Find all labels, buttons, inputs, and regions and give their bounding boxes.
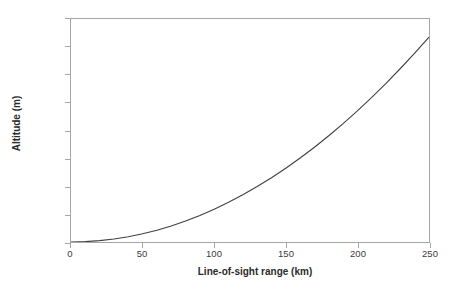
x-axis-title: Line-of-sight range (km) <box>0 266 452 277</box>
x-tick-mark <box>430 243 431 248</box>
series-line-altitude <box>71 37 429 242</box>
x-tick-mark <box>70 243 71 248</box>
x-tick-mark <box>214 243 215 248</box>
x-tick-label: 200 <box>350 248 366 259</box>
chart-container: 05001,0001,5002,0002,5003,0003,5004,000 … <box>0 0 452 295</box>
y-axis-title: Altitude (m) <box>11 64 22 184</box>
x-tick-mark <box>142 243 143 248</box>
plot-svg <box>71 19 429 242</box>
x-tick-label: 100 <box>206 248 222 259</box>
x-tick-label: 250 <box>422 248 438 259</box>
x-tick-mark <box>358 243 359 248</box>
x-tick-label: 50 <box>137 248 148 259</box>
plot-area <box>70 18 430 243</box>
x-tick-mark <box>286 243 287 248</box>
x-tick-label: 150 <box>278 248 294 259</box>
x-tick-label: 0 <box>67 248 72 259</box>
